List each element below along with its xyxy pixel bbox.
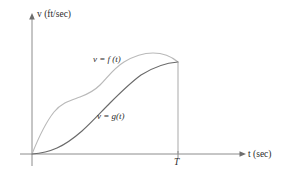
- up-arrow-icon: [29, 13, 35, 20]
- right-arrow-icon: [240, 151, 247, 157]
- curve-label-g: v = g(t): [97, 112, 125, 121]
- velocity-comparison-figure: v (ft/sec) t (sec) v = f (t) v = g(t) T: [0, 0, 291, 188]
- curve-f-of-t: [32, 53, 178, 154]
- x-axis-label: t (sec): [248, 150, 271, 160]
- y-axis-label: v (ft/sec): [37, 10, 71, 20]
- curve-label-f: v = f (t): [93, 55, 121, 64]
- curve-g-of-t: [32, 62, 178, 154]
- figure-canvas: [0, 0, 291, 188]
- x-axis-tick-label-T: T: [174, 158, 179, 168]
